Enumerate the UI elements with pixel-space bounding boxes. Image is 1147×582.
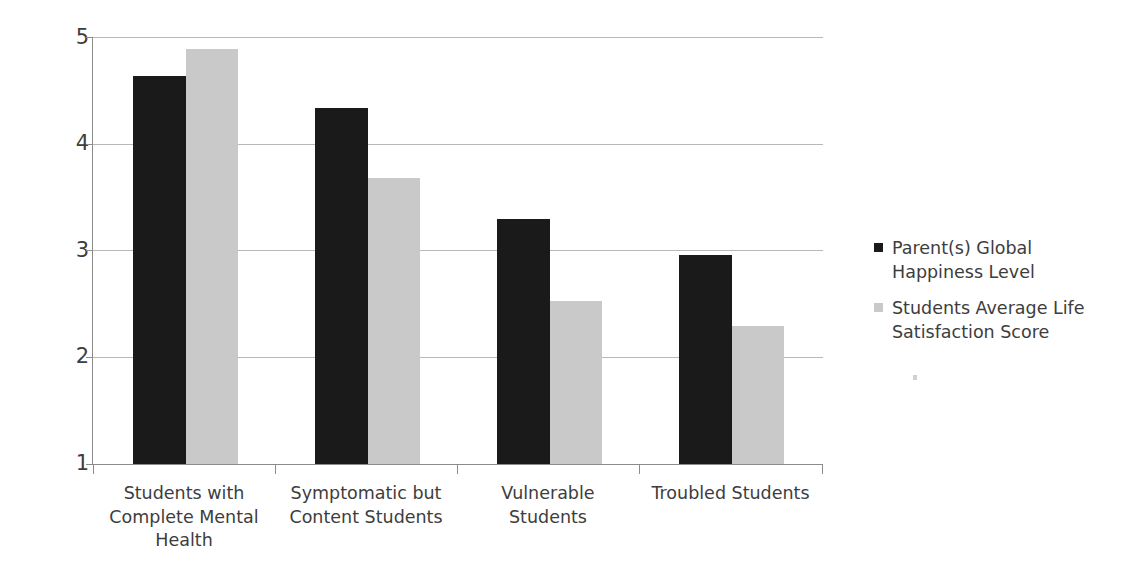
axis-baseline (93, 464, 823, 465)
category-label-vulnerable-students: Vulnerable Students (457, 482, 639, 529)
bar-parent-happiness-3 (497, 219, 550, 464)
bar-student-satisfaction-2 (368, 178, 420, 464)
legend-label-parent-happiness: Parent(s) Global Happiness Level (892, 236, 1035, 284)
category-label-students-with-complete-mental-health: Students with Complete Mental Health (93, 482, 275, 553)
y-tick-label-5: 5 (49, 27, 89, 48)
legend-item-student-satisfaction: Students Average Life Satisfaction Score (874, 296, 1134, 344)
bar-student-satisfaction-4 (732, 326, 784, 464)
legend-swatch-dark-square-icon (874, 243, 883, 252)
x-axis-separator-2 (457, 465, 458, 474)
category-label-troubled-students: Troubled Students (639, 482, 822, 506)
y-tick-mark-3 (86, 250, 93, 251)
bar-chart: 5 4 3 2 1 Students with Complete Mental … (0, 0, 1147, 582)
category-label-symptomatic-but-content-students: Symptomatic but Content Students (275, 482, 457, 529)
bar-student-satisfaction-1 (186, 49, 238, 464)
y-tick-mark-5 (86, 37, 93, 38)
legend-swatch-light-square-icon (874, 303, 883, 312)
bar-parent-happiness-2 (315, 108, 368, 464)
x-axis-separator-0 (93, 465, 94, 474)
scan-artifact-speck (913, 375, 917, 380)
plot-area (93, 37, 823, 464)
bar-parent-happiness-1 (133, 76, 186, 464)
bar-student-satisfaction-3 (550, 301, 602, 464)
bar-parent-happiness-4 (679, 255, 732, 464)
y-tick-mark-2 (86, 357, 93, 358)
y-tick-mark-1 (86, 464, 93, 465)
x-axis-separator-3 (639, 465, 640, 474)
legend-item-parent-happiness: Parent(s) Global Happiness Level (874, 236, 1134, 284)
y-tick-label-3: 3 (49, 240, 89, 261)
y-tick-label-4: 4 (49, 133, 89, 154)
x-axis-separator-4 (822, 465, 823, 474)
y-tick-mark-4 (86, 144, 93, 145)
gridline-5 (93, 37, 823, 38)
chart-legend: Parent(s) Global Happiness Level Student… (874, 236, 1134, 357)
y-tick-label-1: 1 (49, 453, 89, 474)
y-tick-label-2: 2 (49, 346, 89, 367)
legend-label-student-satisfaction: Students Average Life Satisfaction Score (892, 296, 1085, 344)
x-axis-separator-1 (275, 465, 276, 474)
